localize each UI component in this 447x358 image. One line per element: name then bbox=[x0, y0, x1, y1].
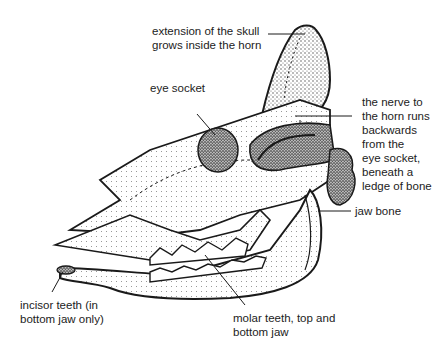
label-line: ledge of bone bbox=[362, 179, 432, 193]
label-horn-core: extension of the skull grows inside the … bbox=[152, 24, 261, 52]
leader-incisors bbox=[52, 272, 63, 292]
label-line: eye socket, bbox=[362, 151, 432, 165]
label-line: from the bbox=[362, 137, 432, 151]
label-line: bottom jaw bbox=[233, 325, 335, 339]
label-line: extension of the skull bbox=[152, 24, 261, 38]
eye-socket bbox=[198, 128, 238, 172]
label-line: bottom jaw only) bbox=[20, 312, 104, 326]
label-line: molar teeth, top and bbox=[233, 311, 335, 325]
label-nerve: the nerve to the horn runs backwards fro… bbox=[362, 95, 432, 193]
label-jaw-bone: jaw bone bbox=[355, 204, 401, 218]
label-eye-socket: eye socket bbox=[150, 81, 205, 95]
skull-diagram: extension of the skull grows inside the … bbox=[0, 0, 447, 358]
label-line: beneath a bbox=[362, 165, 432, 179]
label-line: the nerve to bbox=[362, 95, 432, 109]
incisor-tip bbox=[57, 266, 75, 274]
label-line: grows inside the horn bbox=[152, 38, 261, 52]
label-incisors: incisor teeth (in bottom jaw only) bbox=[20, 298, 104, 326]
label-line: backwards bbox=[362, 123, 432, 137]
label-line: eye socket bbox=[150, 81, 205, 95]
label-line: jaw bone bbox=[355, 204, 401, 218]
occipital-bumps bbox=[327, 149, 355, 205]
label-line: the horn runs bbox=[362, 109, 432, 123]
label-molars: molar teeth, top and bottom jaw bbox=[233, 311, 335, 339]
label-line: incisor teeth (in bbox=[20, 298, 104, 312]
